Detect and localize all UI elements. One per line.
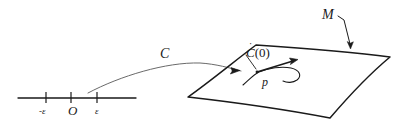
manifold-surface-group — [188, 45, 390, 118]
tangent-vector-argument: (0) — [255, 45, 270, 60]
image-curve-path — [243, 67, 300, 85]
tangent-vector-label: ˙C(0) — [246, 46, 270, 59]
axis-label-origin: O — [68, 104, 77, 117]
manifold-label: M — [322, 8, 334, 22]
number-line-group — [18, 92, 136, 103]
manifold-outline — [188, 45, 390, 118]
point-p-marker — [256, 71, 259, 74]
point-p-label: p — [262, 76, 268, 88]
manifold-leader-arrowhead — [347, 42, 353, 50]
mapping-curve-group — [88, 63, 241, 93]
manifold-leader-group — [338, 16, 353, 49]
mapping-curve-path — [88, 63, 241, 93]
diagram-canvas — [0, 0, 407, 134]
tangent-vector-group — [256, 58, 298, 73]
tangent-vector-c-glyph: ˙C — [246, 46, 255, 59]
tangent-vector-dot-accent: ˙ — [249, 41, 253, 52]
manifold-leader-line — [338, 16, 350, 44]
image-curve-group — [243, 67, 300, 85]
curve-label: C — [160, 47, 169, 61]
mapping-curve-arrowhead — [230, 68, 240, 74]
tangent-vector-shaft — [257, 61, 293, 72]
axis-label-epsilon-negative: -ε — [39, 107, 46, 116]
figure-container: M C ˙C(0) p -ε O ε — [0, 0, 407, 134]
axis-label-epsilon-positive: ε — [95, 107, 99, 116]
